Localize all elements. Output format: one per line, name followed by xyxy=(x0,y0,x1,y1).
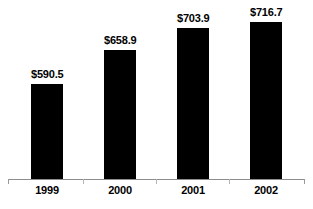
bar-group: $658.9 xyxy=(104,0,136,179)
x-axis-label-2000: 2000 xyxy=(104,184,136,196)
bar xyxy=(177,28,209,179)
x-axis-label-2001: 2001 xyxy=(177,184,209,196)
x-axis-category-labels: 1999200020012002 xyxy=(0,184,313,204)
bar-value-label: $590.5 xyxy=(31,68,63,80)
bar-group: $590.5 xyxy=(31,0,63,179)
bar-group: $703.9 xyxy=(177,0,209,179)
bar xyxy=(250,22,282,179)
bar-chart: $590.5$658.9$703.9$716.7 199920002001200… xyxy=(0,0,313,209)
plot-area: $590.5$658.9$703.9$716.7 xyxy=(0,0,313,179)
bar-value-label: $716.7 xyxy=(250,6,282,18)
bar-value-label: $703.9 xyxy=(177,12,209,24)
bar xyxy=(104,50,136,179)
bar xyxy=(31,84,63,179)
x-axis-label-2002: 2002 xyxy=(250,184,282,196)
bar-group: $716.7 xyxy=(250,0,282,179)
bar-value-label: $658.9 xyxy=(104,34,136,46)
x-axis-label-1999: 1999 xyxy=(31,184,63,196)
